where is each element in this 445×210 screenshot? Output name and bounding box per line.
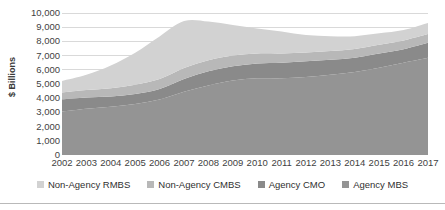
x-axis-tick: 2004 xyxy=(100,158,121,168)
x-axis-tick: 2007 xyxy=(173,158,194,168)
x-axis-tick: 2008 xyxy=(198,158,219,168)
legend-label: Non-Agency CMBS xyxy=(158,179,240,190)
legend-item[interactable]: Agency CMO xyxy=(258,179,326,190)
x-axis-tick-labels: 2002200320042005200620072008200920102011… xyxy=(62,158,428,172)
y-axis-tick: 2,000 xyxy=(36,122,60,132)
x-axis-tick: 2003 xyxy=(76,158,97,168)
y-axis-title: $ Billions xyxy=(7,37,17,117)
legend-swatch-icon xyxy=(342,181,349,188)
y-axis-tick: 1,000 xyxy=(36,136,60,146)
footer-divider xyxy=(0,203,445,204)
x-axis-tick: 2011 xyxy=(271,158,291,168)
legend-label: Agency CMO xyxy=(269,179,326,190)
plot-area xyxy=(62,13,428,155)
x-axis-tick: 2006 xyxy=(149,158,170,168)
y-axis-tick: 10,000 xyxy=(31,8,60,18)
y-axis-tick: 4,000 xyxy=(36,93,60,103)
legend-swatch-icon xyxy=(37,181,44,188)
y-axis-tick: 7,000 xyxy=(36,51,60,61)
y-axis-tick: 5,000 xyxy=(36,79,60,89)
x-axis-tick: 2010 xyxy=(247,158,268,168)
stacked-area-chart: $ Billions 10,0009,0008,0007,0006,0005,0… xyxy=(0,0,445,210)
legend-swatch-icon xyxy=(147,181,154,188)
x-axis-tick: 2012 xyxy=(295,158,316,168)
legend-label: Agency MBS xyxy=(353,179,408,190)
x-axis-tick: 2014 xyxy=(344,158,365,168)
x-axis-tick: 2013 xyxy=(320,158,341,168)
legend-label: Non-Agency RMBS xyxy=(48,179,130,190)
legend-item[interactable]: Agency MBS xyxy=(342,179,408,190)
y-axis-tick: 8,000 xyxy=(36,36,60,46)
legend-item[interactable]: Non-Agency CMBS xyxy=(147,179,240,190)
x-axis-tick: 2002 xyxy=(51,158,72,168)
x-axis-tick: 2015 xyxy=(369,158,390,168)
legend-item[interactable]: Non-Agency RMBS xyxy=(37,179,130,190)
area-series-svg xyxy=(62,13,428,155)
x-axis-tick: 2009 xyxy=(222,158,243,168)
legend-swatch-icon xyxy=(258,181,265,188)
x-axis-tick: 2017 xyxy=(417,158,438,168)
x-axis-tick: 2005 xyxy=(125,158,146,168)
chart-legend: Non-Agency RMBSNon-Agency CMBSAgency CMO… xyxy=(0,176,445,192)
x-axis-tick: 2016 xyxy=(393,158,414,168)
y-axis-tick: 6,000 xyxy=(36,65,60,75)
y-axis-tick: 3,000 xyxy=(36,107,60,117)
y-axis-tick: 9,000 xyxy=(36,22,60,32)
